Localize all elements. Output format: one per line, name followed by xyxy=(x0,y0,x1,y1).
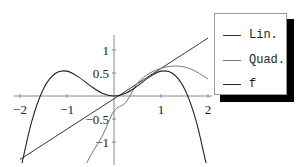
legend-swatch-lin xyxy=(223,35,241,36)
y-tick-label: −0.5 xyxy=(85,112,109,127)
y-tick-label: 0.5 xyxy=(93,66,109,81)
legend-item-lin: Lin. xyxy=(223,28,278,42)
legend-label-f: f xyxy=(249,77,256,91)
legend: Lin. Quad. f xyxy=(214,13,287,95)
x-tick-label: 1 xyxy=(158,102,165,117)
legend-swatch-quad xyxy=(223,60,241,61)
legend-swatch-f xyxy=(223,84,241,85)
legend-item-quad: Quad. xyxy=(223,53,285,67)
legend-item-f: f xyxy=(223,77,256,91)
x-tick-label: 2 xyxy=(205,102,212,117)
x-tick-label: −2 xyxy=(13,102,27,117)
x-tick-label: −1 xyxy=(60,102,74,117)
y-tick-label: 1 xyxy=(103,43,110,58)
legend-label-quad: Quad. xyxy=(249,53,285,67)
legend-label-lin: Lin. xyxy=(249,28,278,42)
